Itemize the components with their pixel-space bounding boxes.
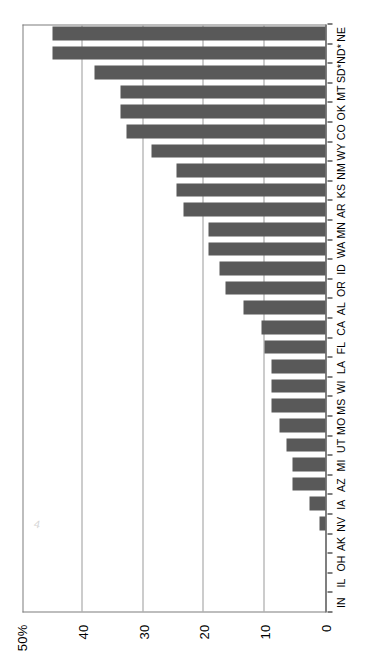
bar: [176, 163, 325, 177]
category-tick: [327, 513, 332, 514]
category-tick: [327, 493, 332, 494]
bar-slot: [21, 183, 325, 197]
bar: [219, 261, 325, 275]
category-tick: [327, 62, 332, 63]
category-tick: [327, 82, 332, 83]
bar-slot: [21, 594, 325, 608]
bar-slot: [21, 496, 325, 510]
bar: [271, 359, 325, 373]
bar: [309, 496, 325, 510]
category-tick: [327, 297, 332, 298]
category-tick: [327, 278, 332, 279]
category-tick-label: ID: [334, 264, 346, 275]
bar: [292, 457, 325, 471]
plot-frame: [22, 24, 326, 612]
category-tick: [327, 591, 332, 592]
category-tick: [327, 356, 332, 357]
bar: [319, 516, 325, 530]
category-tick-label: WY: [334, 143, 346, 160]
value-tick-label: 40: [75, 624, 90, 639]
bar-slot: [21, 242, 325, 256]
bar-slot: [21, 359, 325, 373]
value-tick-label: 30: [136, 624, 151, 639]
bar: [120, 85, 326, 99]
category-tick-label: WI: [334, 380, 346, 393]
category-tick-label: FL: [334, 341, 346, 353]
bar: [271, 398, 325, 412]
category-tick-label: CA: [334, 320, 346, 335]
category-tick-label: IN: [334, 597, 346, 608]
category-tick-label: OK: [334, 105, 346, 120]
category-tick: [327, 533, 332, 534]
category-tick-label: CO: [334, 124, 346, 140]
category-tick: [327, 23, 332, 24]
category-tick-label: NV: [334, 516, 346, 531]
category-tick: [327, 219, 332, 220]
category-tick-label: MN: [334, 222, 346, 239]
category-tick-label: MT: [334, 85, 346, 100]
bar: [208, 222, 325, 236]
bar: [208, 242, 325, 256]
bar-slot: [21, 46, 325, 60]
value-tick-label: 20: [197, 624, 212, 639]
category-tick-label: SD*: [334, 64, 346, 83]
category-tick: [327, 121, 332, 122]
category-tick: [327, 337, 332, 338]
category-tick-label: MI: [334, 459, 346, 471]
category-tick-label: WA: [334, 241, 346, 258]
category-tick-label: NM: [334, 163, 346, 180]
bar-slot: [21, 516, 325, 530]
category-tick: [327, 317, 332, 318]
category-tick: [327, 376, 332, 377]
category-tick: [327, 552, 332, 553]
category-tick: [327, 454, 332, 455]
bar: [126, 124, 325, 138]
bar: [52, 26, 325, 40]
bar-slot: [21, 320, 325, 334]
bar: [271, 379, 325, 393]
category-tick-label: MS: [334, 398, 346, 414]
bar: [183, 202, 325, 216]
value-axis-labels: 01020304050%: [22, 614, 326, 669]
category-tick: [327, 199, 332, 200]
category-tick-label: KS: [334, 184, 346, 198]
chart-area: 01020304050% INILOHAKNVIAAZMIUTMOMSWILAF…: [0, 0, 367, 669]
category-tick-label: AZ: [334, 478, 346, 492]
bar: [279, 418, 325, 432]
bar-slot: [21, 340, 325, 354]
bar: [261, 320, 325, 334]
bar-slot: [21, 163, 325, 177]
category-tick: [327, 435, 332, 436]
bar-slot: [21, 104, 325, 118]
bar-slot: [21, 536, 325, 550]
bar-slot: [21, 202, 325, 216]
bar-series: [23, 25, 325, 611]
bar-slot: [21, 477, 325, 491]
bar-slot: [21, 261, 325, 275]
value-tick-label: 0: [319, 624, 334, 631]
bar-slot: [21, 26, 325, 40]
bar-slot: [21, 457, 325, 471]
value-tick-label: 50%: [15, 624, 30, 651]
category-tick: [327, 101, 332, 102]
bar: [243, 300, 325, 314]
bar: [120, 104, 326, 118]
category-tick: [327, 395, 332, 396]
bar-slot: [21, 418, 325, 432]
category-tick: [327, 415, 332, 416]
bar: [225, 281, 325, 295]
category-tick-label: AK: [334, 536, 346, 550]
category-tick: [327, 611, 332, 612]
category-tick: [327, 43, 332, 44]
value-tick-label: 10: [258, 624, 273, 639]
bar-slot: [21, 398, 325, 412]
bar-slot: [21, 575, 325, 589]
bar: [264, 340, 325, 354]
category-axis-labels: INILOHAKNVIAAZMIUTMOMSWILAFLCAALORIDWAMN…: [327, 24, 367, 612]
bar-slot: [21, 379, 325, 393]
category-tick-label: AR: [334, 203, 346, 218]
bar-slot: [21, 124, 325, 138]
bar-slot: [21, 281, 325, 295]
bar-slot: [21, 85, 325, 99]
category-tick: [327, 160, 332, 161]
